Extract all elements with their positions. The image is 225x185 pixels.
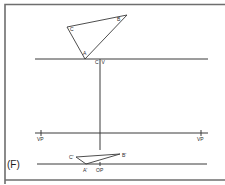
perspective-diagram: A B C C V VP VP A' B' C' OP (F) [0,0,225,184]
perspective-triangle [76,154,120,164]
label-c-prime: C' [69,154,74,160]
panel-label: (F) [7,159,20,170]
frame-border [5,5,225,185]
label-vp-right: VP [197,136,204,142]
label-a: A [83,50,87,56]
label-a-prime: A' [83,167,87,173]
label-picture-plane-c: C [95,59,99,65]
label-b-prime: B' [122,152,126,158]
label-op: OP [96,167,104,173]
label-vp-left: VP [37,136,44,142]
label-b: B [117,16,121,22]
label-picture-plane-v: V [102,59,106,65]
label-c: C [70,26,74,32]
